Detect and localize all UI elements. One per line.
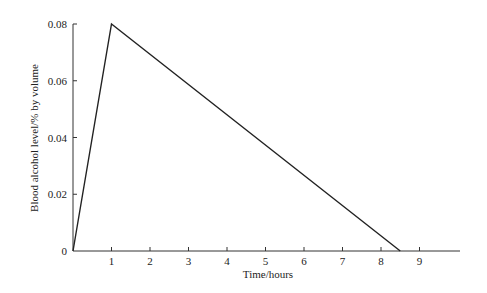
x-axis-title: Time/hours — [243, 268, 293, 280]
x-tick-label: 9 — [417, 255, 423, 267]
y-tick-label: 0.04 — [48, 132, 68, 144]
x-tick-label: 1 — [109, 255, 115, 267]
x-tick-label: 2 — [147, 255, 153, 267]
y-axis-title: Blood alcohol level/% by volume — [28, 64, 40, 212]
axes — [73, 24, 460, 251]
x-tick-label: 5 — [263, 255, 269, 267]
data-series — [73, 24, 400, 251]
x-tick-label: 4 — [224, 255, 230, 267]
x-tick-label: 3 — [186, 255, 192, 267]
x-tick-label: 7 — [340, 255, 346, 267]
y-tick-label: 0.02 — [48, 188, 67, 200]
y-tick-label: 0 — [62, 245, 68, 257]
x-tick-label: 8 — [378, 255, 384, 267]
blood-alcohol-chart: 00.020.040.060.08123456789 Time/hours Bl… — [0, 0, 487, 293]
y-tick-label: 0.06 — [48, 75, 68, 87]
x-tick-label: 6 — [301, 255, 307, 267]
series-line — [73, 24, 400, 251]
ticks: 00.020.040.060.08123456789 — [48, 18, 423, 267]
y-tick-label: 0.08 — [48, 18, 68, 30]
